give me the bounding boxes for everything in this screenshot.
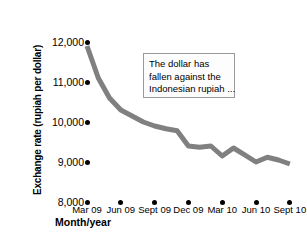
x-axis-tick-label: Jun 10 — [242, 204, 271, 216]
x-axis-tick-label: Mar 10 — [207, 204, 237, 216]
annotation-line-1: The dollar has — [149, 58, 234, 71]
x-axis-title: Month/year — [55, 216, 111, 228]
annotation-callout: The dollar has fallen against the Indone… — [143, 53, 235, 98]
x-axis-tick-label: Sept 09 — [138, 204, 171, 216]
x-axis-tick-label: Dec 09 — [173, 204, 203, 216]
plot-area — [0, 0, 307, 236]
x-axis-tick-label: Jun 09 — [107, 204, 136, 216]
annotation-line-3: Indonesian rupiah ... — [149, 83, 234, 96]
annotation-line-2: fallen against the — [149, 71, 234, 84]
x-axis-tick-label: Mar 09 — [72, 204, 102, 216]
x-axis-tick-labels: Mar 09Jun 09Sept 09Dec 09Mar 10Jun 10Sep… — [0, 204, 307, 217]
x-axis-tick-label: Sept 10 — [273, 204, 306, 216]
exchange-rate-line-chart: Exchange rate (rupiah per dollar) 12,000… — [0, 0, 307, 236]
